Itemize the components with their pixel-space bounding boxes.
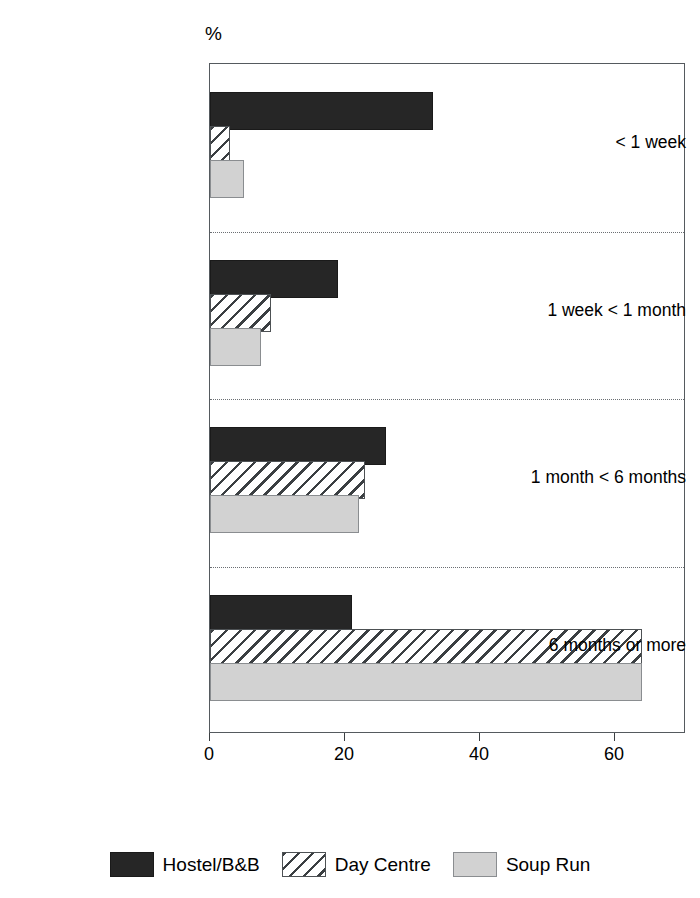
chart-legend: Hostel/B&BDay CentreSoup Run: [0, 852, 700, 877]
category-label-1: 1 week < 1 month: [500, 300, 700, 320]
x-axis: 0204060: [209, 733, 685, 773]
bar-hostel-2: [210, 427, 386, 465]
x-tick-label-0: 0: [204, 744, 214, 764]
legend-item-hostel[interactable]: Hostel/B&B: [110, 852, 260, 877]
light-grey-swatch: [453, 852, 497, 877]
x-tick-40: [479, 733, 480, 741]
group-separator: [210, 232, 684, 233]
bar-souprun-1: [210, 328, 261, 366]
x-tick-0: [209, 733, 210, 741]
axis-unit-label: %: [205, 24, 222, 44]
bar-souprun-3: [210, 663, 642, 701]
x-tick-label-60: 60: [604, 744, 624, 764]
legend-label-souprun: Soup Run: [506, 854, 591, 876]
bar-daycentre-1: [210, 294, 271, 332]
bar-hostel-0: [210, 92, 433, 130]
legend-label-hostel: Hostel/B&B: [163, 854, 260, 876]
legend-item-daycentre[interactable]: Day Centre: [282, 852, 431, 877]
legend-label-daycentre: Day Centre: [335, 854, 431, 876]
x-tick-20: [344, 733, 345, 741]
x-tick-label-40: 40: [469, 744, 489, 764]
chart-title: [0, 0, 700, 6]
group-separator: [210, 567, 684, 568]
group-separator: [210, 399, 684, 400]
bar-daycentre-2: [210, 461, 365, 499]
category-label-0: < 1 week: [500, 132, 700, 152]
x-tick-label-20: 20: [334, 744, 354, 764]
bar-souprun-2: [210, 495, 359, 533]
category-label-2: 1 month < 6 months: [500, 467, 700, 487]
category-label-3: 6 months or more: [500, 635, 700, 655]
bar-daycentre-0: [210, 126, 230, 164]
plot-area: [209, 63, 685, 733]
solid-dark-swatch: [110, 852, 154, 877]
legend-item-souprun[interactable]: Soup Run: [453, 852, 591, 877]
diagonal-hatch-swatch: [282, 852, 326, 877]
bar-hostel-1: [210, 260, 338, 298]
x-tick-60: [614, 733, 615, 741]
bar-souprun-0: [210, 160, 244, 198]
bar-hostel-3: [210, 595, 352, 633]
